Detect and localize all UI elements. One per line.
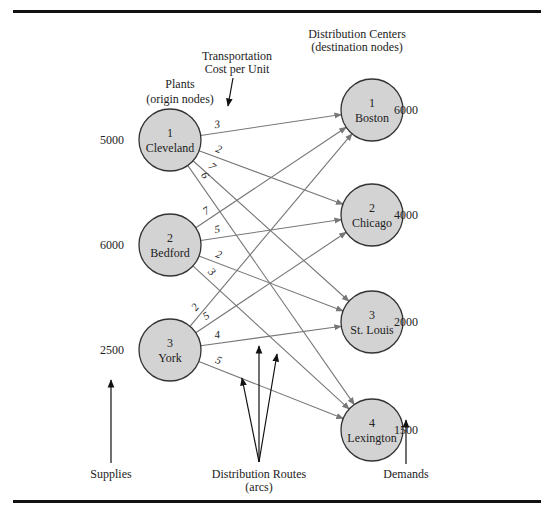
plants-sublabel: (origin nodes) bbox=[146, 92, 214, 106]
cost-label: Transportation bbox=[202, 49, 272, 63]
routes-label: Distribution Routes bbox=[212, 467, 307, 481]
arc-york-stlouis bbox=[201, 326, 342, 345]
node-name: Lexington bbox=[347, 431, 396, 445]
arc-cost-label: 2 bbox=[214, 142, 224, 155]
origin-node-york: 3York bbox=[139, 319, 201, 381]
arc-cost-label: 7 bbox=[200, 203, 212, 216]
node-id: 4 bbox=[369, 416, 375, 430]
arc-cost-label: 3 bbox=[213, 117, 222, 130]
arc-cost-label: 2 bbox=[188, 300, 201, 312]
node-name: Bedford bbox=[150, 246, 189, 260]
node-circle bbox=[139, 319, 201, 381]
cost-sublabel: Cost per Unit bbox=[205, 62, 270, 76]
demand-value: 6000 bbox=[394, 103, 418, 117]
demands-label: Demands bbox=[383, 467, 429, 481]
arc-cost-label: 6 bbox=[199, 169, 212, 181]
node-name: St. Louis bbox=[350, 323, 394, 337]
dc-label: Distribution Centers bbox=[308, 27, 406, 41]
arc-cost-label: 5 bbox=[200, 308, 212, 321]
arc-cleveland-lexington bbox=[188, 165, 355, 404]
node-name: Boston bbox=[355, 111, 389, 125]
supply-value: 6000 bbox=[100, 238, 124, 252]
node-name: Chicago bbox=[352, 216, 392, 230]
node-circle bbox=[139, 214, 201, 276]
routes-sublabel: (arcs) bbox=[245, 480, 272, 494]
node-id: 2 bbox=[369, 201, 375, 215]
routes-pointer-arrow-3 bbox=[259, 354, 277, 462]
node-id: 3 bbox=[167, 336, 173, 350]
transportation-network-diagram: 327675232545 1Cleveland50002Bedford60003… bbox=[0, 0, 554, 514]
cost-pointer-arrow bbox=[228, 78, 233, 106]
arc-cost-label: 5 bbox=[214, 353, 224, 366]
node-name: Cleveland bbox=[146, 141, 195, 155]
origin-node-cleveland: 1Cleveland bbox=[139, 109, 201, 171]
supply-value: 5000 bbox=[100, 133, 124, 147]
node-id: 3 bbox=[369, 308, 375, 322]
node-circle bbox=[139, 109, 201, 171]
routes-pointer-arrow-1 bbox=[242, 378, 259, 462]
origin-node-bedford: 2Bedford bbox=[139, 214, 201, 276]
node-id: 1 bbox=[167, 126, 173, 140]
node-id: 2 bbox=[167, 231, 173, 245]
supplies-label: Supplies bbox=[90, 467, 132, 481]
arc-cleveland-boston bbox=[201, 115, 342, 136]
demand-value: 4000 bbox=[394, 208, 418, 222]
supply-value: 2500 bbox=[100, 343, 124, 357]
arc-bedford-stlouis bbox=[199, 256, 343, 311]
arc-cost-label: 4 bbox=[214, 328, 222, 341]
demand-value: 2000 bbox=[394, 315, 418, 329]
arc-cost-label: 3 bbox=[205, 264, 218, 278]
node-id: 1 bbox=[369, 96, 375, 110]
arc-cost-label: 5 bbox=[214, 222, 222, 235]
node-name: York bbox=[158, 351, 181, 365]
dc-sublabel: (destination nodes) bbox=[311, 40, 403, 54]
plants-label: Plants bbox=[165, 77, 195, 91]
arc-cost-label: 2 bbox=[214, 247, 224, 260]
